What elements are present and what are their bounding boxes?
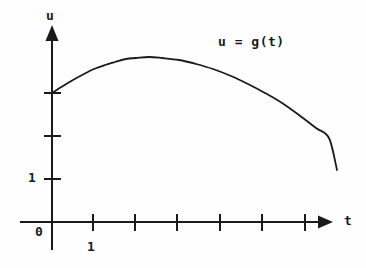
- curve-equation-label: u = g(t): [218, 35, 285, 48]
- y-tick-label-1: 1: [28, 171, 36, 184]
- plot-canvas: [0, 0, 366, 268]
- graph-figure: u t 0 1 1 u = g(t): [0, 0, 366, 268]
- origin-label: 0: [35, 225, 43, 238]
- x-axis-label: t: [344, 214, 352, 227]
- function-curve: [52, 57, 337, 170]
- x-tick-label-1: 1: [87, 240, 95, 253]
- x-axis-arrowhead: [318, 216, 333, 229]
- y-axis-label: u: [46, 9, 54, 22]
- y-axis-arrowhead: [46, 25, 59, 41]
